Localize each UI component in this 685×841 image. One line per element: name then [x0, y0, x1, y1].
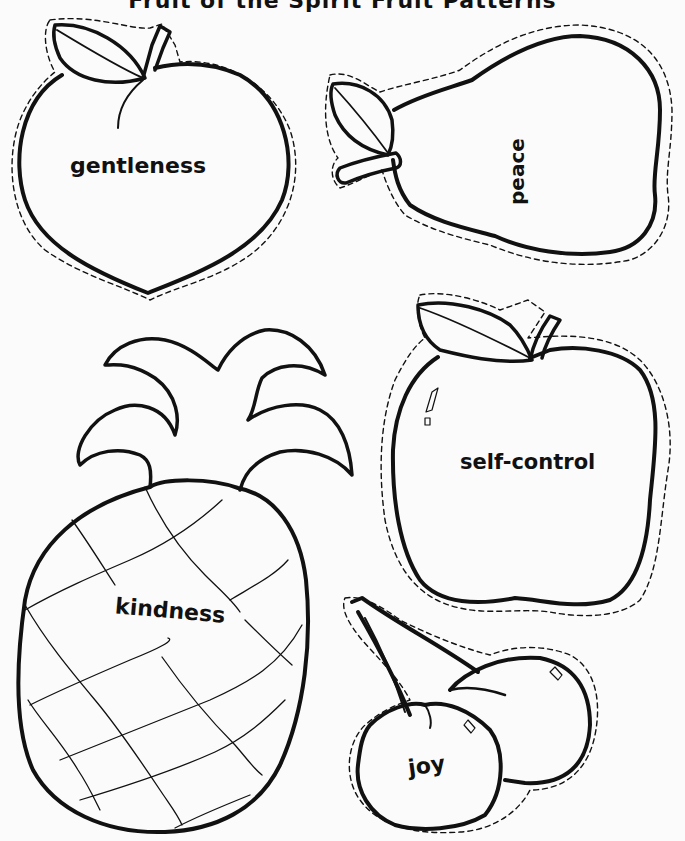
- fruit-patterns-artwork: [0, 0, 685, 841]
- cherries-shape: [344, 597, 598, 832]
- pear-shape: [326, 25, 672, 264]
- pineapple-shape: [18, 330, 352, 832]
- apple-label: self-control: [460, 450, 595, 474]
- pear-label: peace: [505, 138, 529, 205]
- cherries-label: joy: [406, 751, 446, 781]
- peach-label: gentleness: [70, 153, 206, 178]
